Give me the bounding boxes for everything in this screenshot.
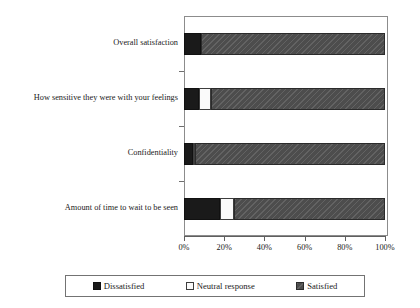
bar-segment-dissatisfied[interactable] bbox=[184, 198, 220, 220]
x-axis-tick-label: 100% bbox=[363, 243, 407, 252]
category-label: Confidentiality bbox=[0, 148, 178, 159]
y-axis-tick bbox=[179, 126, 184, 127]
x-axis-tick-label: 0% bbox=[162, 243, 206, 252]
x-axis-tick bbox=[184, 236, 185, 241]
bar-segment-satisfied[interactable] bbox=[234, 198, 385, 220]
stacked-bar[interactable] bbox=[184, 88, 385, 110]
category-label: How sensitive they were with your feelin… bbox=[0, 93, 178, 104]
x-axis-tick bbox=[224, 236, 225, 241]
legend-swatch-satisfied-icon bbox=[296, 282, 304, 290]
legend-label-dissatisfied: Dissatisfied bbox=[104, 281, 145, 291]
bar-segment-neutral-response[interactable] bbox=[199, 88, 211, 110]
category-row: Confidentiality bbox=[0, 126, 420, 181]
x-axis-tick-label: 60% bbox=[283, 243, 327, 252]
legend-item-dissatisfied[interactable]: Dissatisfied bbox=[93, 281, 145, 291]
legend-label-neutral: Neutral response bbox=[197, 281, 255, 291]
bar-segment-dissatisfied[interactable] bbox=[184, 33, 201, 55]
x-axis-line bbox=[184, 236, 386, 237]
y-axis-tick bbox=[179, 181, 184, 182]
x-axis-tick bbox=[305, 236, 306, 241]
legend-item-satisfied[interactable]: Satisfied bbox=[296, 281, 337, 291]
chart-figure: Overall satisfactionHow sensitive they w… bbox=[0, 0, 420, 308]
category-label: Overall satisfaction bbox=[0, 38, 178, 49]
legend-item-neutral[interactable]: Neutral response bbox=[186, 281, 255, 291]
bar-segment-neutral-response[interactable] bbox=[220, 198, 234, 220]
category-row: How sensitive they were with your feelin… bbox=[0, 71, 420, 126]
x-axis-tick bbox=[345, 236, 346, 241]
chart-legend: Dissatisfied Neutral response Satisfied bbox=[65, 275, 365, 297]
legend-label-satisfied: Satisfied bbox=[307, 281, 337, 291]
y-axis-tick bbox=[179, 71, 184, 72]
x-axis-tick bbox=[264, 236, 265, 241]
stacked-bar[interactable] bbox=[184, 143, 385, 165]
category-row: Amount of time to wait to be seen bbox=[0, 181, 420, 236]
stacked-bar[interactable] bbox=[184, 33, 385, 55]
stacked-bar[interactable] bbox=[184, 198, 385, 220]
bar-segment-satisfied[interactable] bbox=[195, 143, 385, 165]
bar-segment-dissatisfied[interactable] bbox=[184, 88, 199, 110]
legend-swatch-dissatisfied-icon bbox=[93, 282, 101, 290]
category-row: Overall satisfaction bbox=[0, 16, 420, 71]
x-axis-tick-label: 40% bbox=[242, 243, 286, 252]
bar-segment-satisfied[interactable] bbox=[211, 88, 385, 110]
x-axis-tick-label: 20% bbox=[202, 243, 246, 252]
bar-segment-satisfied[interactable] bbox=[201, 33, 385, 55]
x-axis-tick bbox=[385, 236, 386, 241]
x-axis-tick-label: 80% bbox=[323, 243, 367, 252]
category-label: Amount of time to wait to be seen bbox=[0, 203, 178, 214]
bar-segment-dissatisfied[interactable] bbox=[184, 143, 193, 165]
legend-swatch-neutral-icon bbox=[186, 282, 194, 290]
